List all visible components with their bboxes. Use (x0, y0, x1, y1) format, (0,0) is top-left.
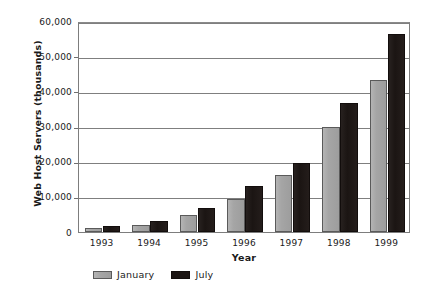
y-axis-tick-label: 40,000 (39, 88, 72, 97)
y-axis-tick-label: 30,000 (39, 123, 72, 132)
bar-january-1994 (132, 225, 150, 232)
gridline (79, 128, 409, 129)
gridline (79, 58, 409, 59)
x-axis-tick-label: 1995 (172, 238, 222, 248)
bar-july-1999 (388, 34, 406, 232)
bar-july-1996 (245, 186, 263, 232)
bar-january-1998 (322, 127, 340, 232)
bar-january-1997 (275, 175, 293, 232)
legend-item-july: July (171, 269, 213, 280)
x-axis-tick-label: 1993 (77, 238, 127, 248)
bar-chart: Web Host Servers (thousands) 010,00020,0… (0, 0, 427, 293)
y-axis-tick-label: 0 (66, 229, 72, 238)
plot-area (78, 22, 410, 233)
bar-july-1994 (150, 221, 168, 232)
bar-january-1995 (180, 215, 198, 232)
chart-legend: JanuaryJuly (93, 269, 213, 280)
legend-label: January (117, 269, 154, 280)
legend-label: July (195, 269, 213, 280)
x-axis-tick-label: 1994 (124, 238, 174, 248)
y-axis-tick-label: 10,000 (39, 193, 72, 202)
y-axis-tick-label: 60,000 (39, 18, 72, 27)
x-axis-tick-label: 1999 (361, 238, 411, 248)
x-axis-tick-label: 1998 (314, 238, 364, 248)
y-axis-tick-label: 50,000 (39, 53, 72, 62)
gridline (79, 93, 409, 94)
bar-july-1995 (198, 208, 216, 232)
y-axis-tick-label: 20,000 (39, 158, 72, 167)
bar-july-1993 (103, 226, 121, 232)
x-axis-title: Year (78, 252, 410, 263)
x-axis-tick-label: 1997 (266, 238, 316, 248)
bar-july-1998 (340, 103, 358, 232)
january-swatch (93, 271, 112, 279)
bar-july-1997 (293, 163, 311, 232)
bar-january-1993 (85, 228, 103, 232)
july-swatch (171, 271, 190, 279)
legend-item-january: January (93, 269, 154, 280)
gridline (79, 23, 409, 24)
bar-january-1999 (370, 80, 388, 232)
bar-january-1996 (227, 199, 245, 232)
gridline (79, 163, 409, 164)
x-axis-tick-label: 1996 (219, 238, 269, 248)
